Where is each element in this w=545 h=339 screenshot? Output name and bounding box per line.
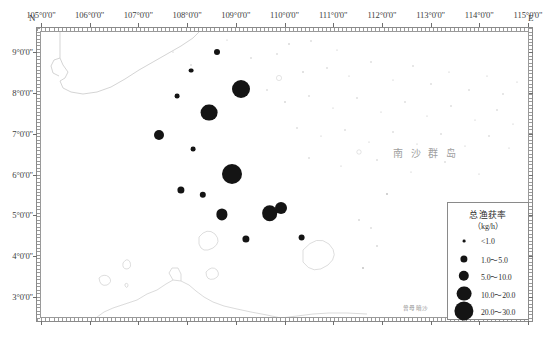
graticule-minor-tick bbox=[103, 28, 104, 31]
graticule-minor-tick bbox=[529, 112, 532, 113]
graticule-minor-tick bbox=[227, 28, 228, 31]
graticule-minor-tick bbox=[529, 304, 532, 305]
graticule-minor-tick bbox=[529, 286, 532, 287]
graticule-minor-tick bbox=[243, 28, 244, 31]
graticule-minor-tick bbox=[239, 28, 240, 31]
graticule-minor-tick bbox=[37, 168, 40, 169]
graticule-minor-tick bbox=[305, 28, 306, 31]
graticule-minor-tick bbox=[190, 318, 191, 321]
graticule-minor-tick bbox=[305, 318, 306, 321]
longitude-label-6: 111°0'0" bbox=[319, 10, 348, 20]
graticule-minor-tick bbox=[256, 318, 257, 321]
graticule-minor-tick bbox=[37, 255, 40, 256]
graticule-minor-tick bbox=[206, 28, 207, 31]
longitude-label-0: 105°0'0" bbox=[26, 10, 55, 20]
latitude-label-4: 5°0'0" bbox=[12, 210, 33, 220]
graticule-minor-tick bbox=[37, 157, 40, 158]
longitude-tick bbox=[431, 23, 432, 27]
latitude-tick bbox=[529, 256, 533, 257]
graticule-minor-tick bbox=[379, 28, 380, 31]
graticule-minor-tick bbox=[210, 28, 211, 31]
graticule-minor-tick bbox=[529, 234, 532, 235]
longitude-label-10: 115°0'0" bbox=[514, 10, 543, 20]
graticule-minor-tick bbox=[313, 28, 314, 31]
graticule-minor-tick bbox=[529, 101, 532, 102]
graticule-minor-tick bbox=[37, 248, 40, 249]
latitude-label-1: 8°0'0" bbox=[12, 88, 33, 98]
legend-unit: （kg/h） bbox=[448, 220, 528, 231]
graticule-minor-tick bbox=[45, 28, 46, 31]
graticule-minor-tick bbox=[78, 318, 79, 321]
graticule-minor-tick bbox=[157, 28, 158, 31]
graticule-minor-tick bbox=[301, 318, 302, 321]
graticule-minor-tick bbox=[309, 318, 310, 321]
graticule-minor-tick bbox=[66, 28, 67, 31]
longitude-tick bbox=[333, 23, 334, 27]
graticule-minor-tick bbox=[252, 28, 253, 31]
graticule-minor-tick bbox=[503, 28, 504, 31]
catch-rate-point bbox=[175, 94, 180, 99]
legend-swatch-cell bbox=[448, 302, 480, 320]
longitude-label-7: 112°0'0" bbox=[367, 10, 396, 20]
longitude-tick bbox=[285, 23, 286, 27]
graticule-minor-tick bbox=[400, 28, 401, 31]
graticule-minor-tick bbox=[529, 94, 532, 95]
graticule-minor-tick bbox=[511, 28, 512, 31]
graticule-minor-tick bbox=[37, 185, 40, 186]
graticule-minor-tick bbox=[128, 28, 129, 31]
graticule-minor-tick bbox=[313, 318, 314, 321]
graticule-minor-tick bbox=[37, 318, 40, 319]
graticule-minor-tick bbox=[37, 290, 40, 291]
graticule-minor-tick bbox=[404, 318, 405, 321]
graticule-minor-tick bbox=[37, 265, 40, 266]
graticule-minor-tick bbox=[37, 283, 40, 284]
graticule-minor-tick bbox=[58, 28, 59, 31]
graticule-minor-tick bbox=[408, 28, 409, 31]
graticule-minor-tick bbox=[37, 63, 40, 64]
latitude-tick bbox=[33, 215, 37, 216]
latitude-tick bbox=[529, 52, 533, 53]
graticule-minor-tick bbox=[37, 35, 40, 36]
graticule-minor-tick bbox=[529, 59, 532, 60]
graticule-minor-tick bbox=[37, 237, 40, 238]
graticule-minor-tick bbox=[37, 304, 40, 305]
longitude-tick bbox=[90, 23, 91, 27]
graticule-minor-tick bbox=[37, 94, 40, 95]
graticule-minor-tick bbox=[95, 318, 96, 321]
graticule-minor-tick bbox=[214, 318, 215, 321]
graticule-minor-tick bbox=[37, 307, 40, 308]
graticule-minor-tick bbox=[529, 189, 532, 190]
graticule-minor-tick bbox=[37, 241, 40, 242]
graticule-minor-tick bbox=[37, 182, 40, 183]
legend-label: 1.0～5.0 bbox=[481, 253, 508, 264]
graticule-minor-tick bbox=[529, 80, 532, 81]
graticule-minor-tick bbox=[529, 63, 532, 64]
graticule-minor-tick bbox=[144, 318, 145, 321]
graticule-minor-tick bbox=[91, 28, 92, 31]
longitude-tick bbox=[236, 23, 237, 27]
graticule-minor-tick bbox=[529, 283, 532, 284]
graticule-minor-tick bbox=[264, 318, 265, 321]
graticule-minor-tick bbox=[243, 318, 244, 321]
graticule-minor-tick bbox=[529, 143, 532, 144]
graticule-minor-tick bbox=[529, 185, 532, 186]
graticule-minor-tick bbox=[421, 28, 422, 31]
graticule-minor-tick bbox=[529, 258, 532, 259]
legend-label: 5.0～10.0 bbox=[481, 271, 512, 282]
graticule-minor-tick bbox=[169, 28, 170, 31]
graticule-minor-tick bbox=[268, 318, 269, 321]
graticule-minor-tick bbox=[37, 230, 40, 231]
graticule-minor-tick bbox=[37, 80, 40, 81]
legend-swatch bbox=[454, 301, 473, 320]
graticule-minor-tick bbox=[529, 84, 532, 85]
graticule-minor-tick bbox=[429, 28, 430, 31]
graticule-minor-tick bbox=[529, 154, 532, 155]
graticule-minor-tick bbox=[115, 318, 116, 321]
longitude-tick bbox=[382, 23, 383, 27]
graticule-minor-tick bbox=[529, 49, 532, 50]
graticule-minor-tick bbox=[37, 56, 40, 57]
graticule-minor-tick bbox=[219, 28, 220, 31]
graticule-minor-tick bbox=[529, 293, 532, 294]
graticule-minor-tick bbox=[70, 318, 71, 321]
graticule-minor-tick bbox=[37, 91, 40, 92]
